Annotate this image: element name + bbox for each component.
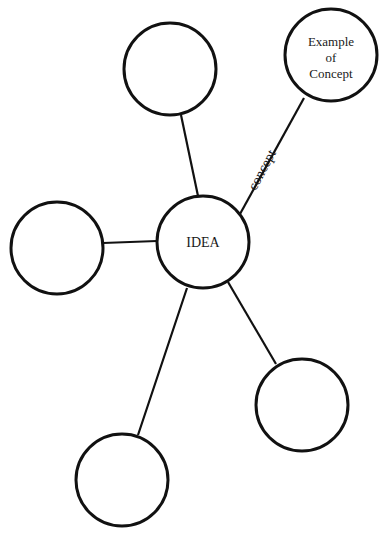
node-bottom-right (256, 359, 348, 451)
edge-label-concept: concept (245, 147, 279, 193)
node-bottom-left (76, 434, 168, 526)
edge-idea-top (181, 115, 198, 196)
concept-map-canvas: concept IDEA Example of Concept (0, 0, 390, 539)
edge-idea-bottom-left (138, 288, 187, 435)
node-left (11, 202, 103, 294)
idea-label: IDEA (186, 235, 220, 250)
example-label-line3: Concept (309, 66, 353, 81)
node-top (124, 23, 216, 115)
edge-idea-bottom-right (228, 282, 276, 364)
edge-idea-left (103, 241, 157, 243)
example-label-line1: Example (308, 34, 354, 49)
example-label-line2: of (326, 50, 338, 65)
